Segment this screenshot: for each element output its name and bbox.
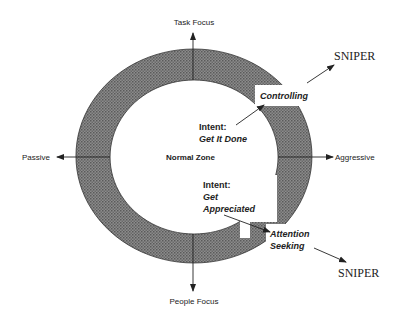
upper-sniper-label: SNIPER [334, 49, 375, 63]
lower-sniper-arrow [314, 248, 346, 262]
lower-sniper-label: SNIPER [338, 266, 379, 280]
attention-label-line2: Seeking [270, 241, 305, 251]
people-focus-label: People Focus [170, 297, 219, 306]
controlling-label: Controlling [260, 91, 308, 101]
lower-intent-label: Intent: [203, 180, 231, 190]
aggressive-label: Aggressive [335, 153, 375, 162]
diagram-canvas: Task Focus People Focus Passive Aggressi… [0, 0, 409, 323]
attention-label-line1: Attention [269, 229, 310, 239]
task-focus-label: Task Focus [174, 18, 214, 27]
passive-label: Passive [22, 153, 51, 162]
upper-intent-label: Intent: [199, 122, 227, 132]
lower-intent-value-line2: Appreciated [202, 204, 256, 214]
lower-intent-value-line1: Get [203, 192, 219, 202]
upper-sniper-arrow [307, 65, 334, 83]
normal-zone-label: Normal Zone [166, 153, 215, 162]
upper-intent-value: Get It Done [199, 134, 247, 144]
get-it-done-arrow [236, 105, 264, 125]
